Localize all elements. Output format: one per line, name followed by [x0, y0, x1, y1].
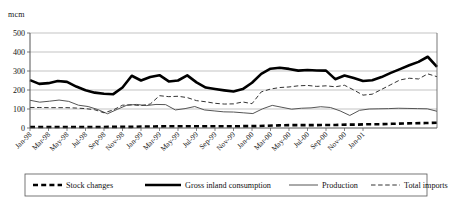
x-axis-tick-labels: Jan-98Mar-98May-98Jul-98Sep-98Nov-98Jan-… [13, 130, 367, 153]
y-tick-label: 200 [13, 86, 25, 95]
y-tick-label: 100 [13, 105, 25, 114]
series-line-gross-inland-consumption [30, 57, 437, 94]
y-tick-label: 500 [13, 29, 25, 38]
legend-label-gross-inland-consumption: Gross inland consumption [185, 181, 271, 190]
x-tick-label: Jul-98 [69, 130, 89, 150]
x-tick-label: Jul-99 [180, 130, 200, 150]
x-tick-label: May-98 [47, 130, 70, 153]
legend-label-production: Production [322, 181, 358, 190]
y-tick-label: 400 [13, 48, 25, 57]
x-tick-label: May-99 [158, 130, 181, 153]
x-axis-tick-marks [30, 128, 363, 131]
x-tick-label: Nov-00 [326, 130, 349, 153]
line-chart: 0100200300400500 Jan-98Mar-98May-98Jul-9… [0, 0, 451, 203]
y-tick-label: 300 [13, 67, 25, 76]
x-tick-label: May-00 [269, 130, 292, 153]
legend-label-total-imports: Total imports [404, 181, 448, 190]
x-tick-label: Nov-99 [215, 130, 238, 153]
x-tick-label: Jan-01 [346, 130, 367, 151]
series-line-stock-changes [30, 123, 437, 127]
legend-label-stock-changes: Stock changes [66, 181, 113, 190]
plot-area-right-border [437, 33, 438, 128]
series-line-production [30, 100, 437, 115]
x-tick-label: Jul-00 [291, 130, 311, 150]
series-layer [30, 57, 437, 127]
y-axis-tick-labels: 0100200300400500 [13, 29, 25, 133]
x-tick-label: Nov-98 [104, 130, 127, 153]
